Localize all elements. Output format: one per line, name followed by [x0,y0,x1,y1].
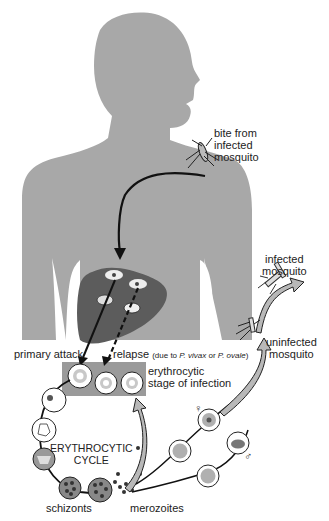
schizont-rupturing [88,478,112,502]
erythrocyte [121,372,143,394]
relapse-text: relapse [113,348,149,360]
label-line: erythrocytic [148,365,231,377]
label-line: CYCLE [50,454,133,466]
female-symbol: ♀ [194,402,202,414]
relapse-or: or [206,351,218,360]
label-erythrocytic-stage: erythrocytic stage of infection [148,365,231,389]
label-merozoites: merozoites [130,502,184,514]
label-uninfected-mosquito: uninfected mosquito [266,336,317,360]
mosquito-infection-arrow [256,278,304,333]
relapse-close: ) [246,351,249,360]
label-line: ERYTHROCYTIC [50,442,133,454]
label-line: uninfected [266,336,317,348]
label-bite-from-infected-mosquito: bite from infected mosquito [214,127,259,163]
label-line: infected [214,139,259,151]
label-line: stage of infection [148,377,231,389]
label-line: mosquito [214,151,259,163]
gametocyte-precursor [169,440,191,462]
erythrocyte [95,372,117,394]
gametocyte-precursor [197,465,219,487]
erythrocyte [68,364,92,388]
label-line: infected [262,253,307,265]
label-schizonts: schizonts [46,502,92,514]
label-primary-attack: primary attack [14,348,83,360]
species-ovale: P. ovale [218,351,246,360]
male-symbol: ♂ [244,450,252,462]
ring-stage-cell [42,388,66,412]
relapse-note: (due to [152,351,179,360]
label-infected-mosquito: infected mosquito [262,253,307,277]
schizont [59,477,81,499]
label-line: mosquito [266,348,317,360]
label-line: mosquito [262,265,307,277]
label-line: bite from [214,127,259,139]
trophozoite-cell [32,418,56,442]
species-vivax: P. vivax [179,351,206,360]
label-erythrocytic-cycle: ERYTHROCYTIC CYCLE [50,442,133,466]
label-relapse: relapse (due to P. vivax or P. ovale) [113,348,248,362]
